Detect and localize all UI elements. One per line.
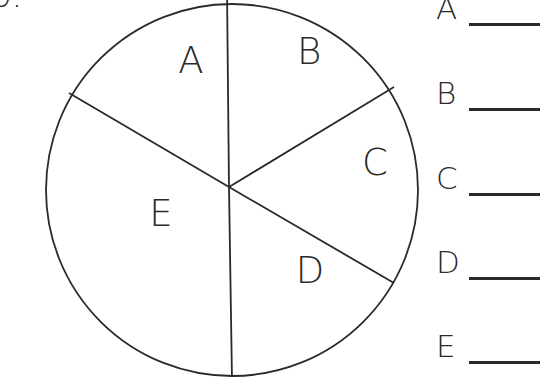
answer-blank-a[interactable]	[469, 23, 540, 26]
section-label-b: B	[297, 30, 321, 73]
answer-label: D	[436, 247, 460, 278]
answer-blank-d[interactable]	[469, 277, 540, 280]
answer-label: E	[436, 331, 456, 362]
spoke-bottom	[229, 187, 232, 377]
answer-blank-e[interactable]	[469, 361, 540, 364]
answer-row-b: B	[436, 81, 540, 111]
section-label-c: C	[362, 141, 388, 184]
answer-label: C	[436, 163, 458, 194]
spoke-top	[227, 0, 229, 187]
answer-row-a: A	[436, 0, 540, 26]
answer-row-d: D	[436, 250, 540, 280]
answer-label: B	[436, 78, 456, 109]
answer-label: A	[436, 0, 457, 24]
section-label-d: D	[296, 249, 325, 292]
answer-row-c: C	[436, 166, 540, 196]
answer-blank-c[interactable]	[469, 193, 540, 196]
spoke-upper-left	[69, 93, 229, 187]
pie-circle-outline	[46, 4, 418, 376]
section-label-e: E	[149, 192, 172, 235]
answer-row-e: E	[436, 334, 540, 364]
section-label-a: A	[178, 39, 203, 82]
pie-dividing-lines	[69, 0, 394, 377]
answer-blank-b[interactable]	[469, 108, 540, 111]
